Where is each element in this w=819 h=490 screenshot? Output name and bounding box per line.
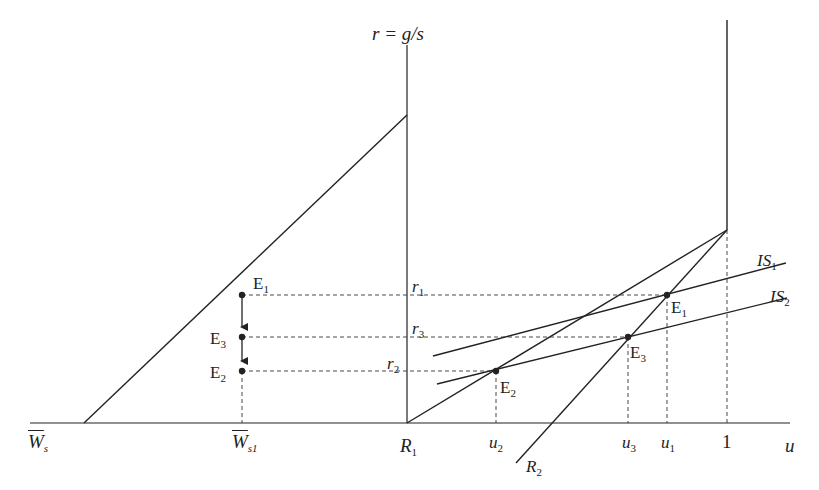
left-diagonal-line	[84, 115, 407, 423]
point-e3-left	[239, 334, 245, 340]
label-is2: IS2	[770, 288, 790, 308]
tick-ws: Ws	[28, 432, 48, 454]
label-r3: r3	[412, 320, 424, 340]
point-e2-left	[239, 368, 245, 374]
tick-u2: u2	[489, 434, 503, 454]
point-e1	[664, 292, 670, 298]
label-e3-left: E3	[210, 330, 226, 350]
r2-line	[516, 230, 727, 463]
label-is1: IS1	[757, 252, 777, 272]
label-r2: R2	[526, 458, 542, 478]
horizontal-axis-label: u	[785, 436, 795, 455]
label-e3: E3	[630, 344, 646, 364]
tick-u3: u3	[622, 434, 636, 454]
tick-one: 1	[722, 432, 732, 451]
label-r1: r1	[412, 278, 424, 298]
point-e1-left	[239, 292, 245, 298]
tick-r1: R1	[400, 436, 417, 458]
label-e2-left: E2	[210, 364, 226, 384]
label-e1-left: E1	[253, 275, 269, 295]
label-r2-rate: r2	[387, 355, 399, 375]
label-e1: E1	[671, 299, 687, 319]
point-e3	[625, 334, 631, 340]
label-e2: E2	[500, 379, 516, 399]
point-e2	[493, 368, 499, 374]
tick-ws1: Ws1	[232, 432, 258, 454]
diagram-canvas	[0, 0, 819, 490]
tick-u1: u1	[661, 434, 675, 454]
vertical-axis-label: r = g/s	[372, 24, 424, 43]
r1-line	[407, 230, 727, 423]
